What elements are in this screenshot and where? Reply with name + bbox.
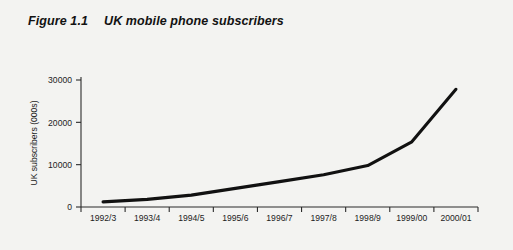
y-tick-label: 20000 [48, 118, 72, 128]
x-tick-label: 1994/5 [178, 213, 205, 223]
y-axis: 0100002000030000 UK subscribers (000s) [29, 75, 81, 212]
x-tick-label: 2000/01 [440, 213, 471, 223]
y-tick-label: 10000 [48, 160, 72, 170]
y-tick-label: 0 [67, 202, 72, 212]
x-tick-label: 1995/6 [222, 213, 249, 223]
y-tick-marks [76, 80, 81, 207]
x-tick-label: 1992/3 [90, 213, 117, 223]
x-tick-label: 1998/9 [355, 213, 382, 223]
figure-title: Figure 1.1UK mobile phone subscribers [28, 14, 284, 28]
x-tick-label: 1993/4 [134, 213, 161, 223]
x-tick-labels: 1992/31993/41994/51995/61996/71997/81998… [90, 213, 472, 223]
x-tick-label: 1996/7 [266, 213, 293, 223]
x-tick-label: 1997/8 [310, 213, 337, 223]
figure-number: Figure 1.1 [28, 14, 88, 28]
data-series-line [103, 89, 456, 202]
chart-plot-area: 0100002000030000 UK subscribers (000s) 1… [0, 55, 513, 230]
line-chart: 0100002000030000 UK subscribers (000s) 1… [0, 55, 513, 230]
figure-container: Figure 1.1UK mobile phone subscribers 01… [0, 0, 513, 250]
x-tick-marks [81, 207, 478, 212]
x-axis: 1992/31993/41994/51995/61996/71997/81998… [81, 207, 478, 223]
y-tick-label: 30000 [48, 75, 72, 85]
y-axis-title: UK subscribers (000s) [29, 100, 39, 185]
figure-title-text: UK mobile phone subscribers [104, 14, 284, 28]
x-tick-label: 1999/00 [396, 213, 427, 223]
y-tick-labels: 0100002000030000 [48, 75, 72, 212]
